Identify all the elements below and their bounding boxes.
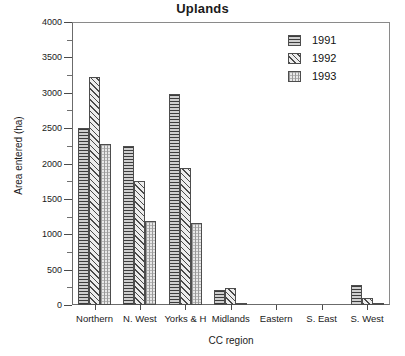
y-axis-tick-label-wrap: 0: [10, 301, 62, 310]
legend-item-1992[interactable]: 1992: [288, 49, 378, 67]
y-axis-tick-label: 3500: [16, 53, 62, 62]
x-axis-label-midlands: Midlands: [212, 313, 250, 324]
chart-legend: 199119921993: [288, 31, 378, 85]
x-axis-tick: [367, 305, 368, 310]
bar-northern-1992: [89, 77, 100, 305]
x-axis-label-s-west: S. West: [351, 313, 384, 324]
y-axis-tick: [64, 234, 72, 235]
y-axis-tick-label: 0: [16, 301, 62, 310]
bar-northern-1991: [78, 128, 89, 305]
x-axis-label-yorks-h: Yorks & H: [164, 313, 206, 324]
bar-n-west-1993: [145, 221, 156, 305]
chart-title: Uplands: [0, 1, 405, 16]
x-axis-label-s-east: S. East: [306, 313, 337, 324]
bar-s-west-1991: [351, 285, 362, 305]
y-axis-tick-label-wrap: 4000: [10, 18, 62, 27]
x-axis-title: CC region: [72, 335, 390, 346]
y-axis-tick-label: 4000: [16, 18, 62, 27]
legend-label-1993: 1993: [312, 71, 336, 82]
x-axis-label-n-west: N. West: [123, 313, 157, 324]
bar-midlands-1993: [236, 303, 247, 305]
x-axis-tick: [322, 305, 323, 310]
legend-swatch-1992: [288, 53, 301, 64]
y-axis-tick: [64, 199, 72, 200]
bar-northern-1993: [100, 144, 111, 305]
x-axis-tick: [140, 305, 141, 310]
legend-swatch-1993: [288, 71, 301, 82]
x-axis-tick: [95, 305, 96, 310]
y-axis-tick: [64, 270, 72, 271]
bar-yorks-h-1993: [191, 223, 202, 305]
y-axis-tick: [64, 164, 72, 165]
legend-label-1992: 1992: [312, 53, 336, 64]
x-axis-tick: [231, 305, 232, 310]
bar-n-west-1992: [134, 181, 145, 305]
x-axis-label-eastern: Eastern: [260, 313, 293, 324]
x-axis-label-northern: Northern: [76, 313, 113, 324]
legend-item-1991[interactable]: 1991: [288, 31, 378, 49]
bar-n-west-1991: [123, 146, 134, 305]
bar-s-west-1993: [373, 303, 384, 305]
bar-midlands-1992: [225, 288, 236, 305]
y-axis-tick: [64, 128, 72, 129]
y-axis-tick-label-wrap: 3500: [10, 53, 62, 62]
y-axis-tick: [64, 305, 72, 306]
bar-chart: Uplands 05001000150020002500300035004000…: [0, 0, 405, 356]
x-axis-tick: [185, 305, 186, 310]
bar-s-west-1992: [362, 298, 373, 305]
bar-midlands-1991: [214, 290, 225, 305]
y-axis-tick: [64, 57, 72, 58]
legend-item-1993[interactable]: 1993: [288, 67, 378, 85]
legend-swatch-1991: [288, 35, 301, 46]
bar-yorks-h-1992: [180, 168, 191, 305]
y-axis-title: Area entered (ha): [13, 66, 24, 246]
y-axis-tick-label: 500: [16, 266, 62, 275]
bar-yorks-h-1991: [169, 94, 180, 305]
y-axis-tick: [64, 22, 72, 23]
y-axis-tick-label-wrap: 500: [10, 266, 62, 275]
legend-label-1991: 1991: [312, 35, 336, 46]
y-axis-tick: [64, 93, 72, 94]
x-axis-tick: [276, 305, 277, 310]
